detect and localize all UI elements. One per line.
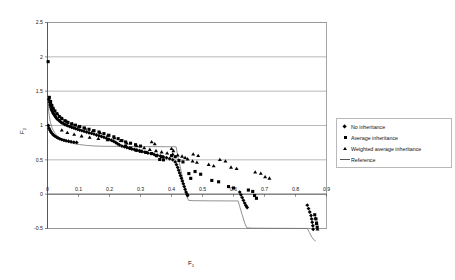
legend-item-label: Weighted average inheritance (351, 146, 421, 152)
legend-item-square[interactable]: Average inheritance (339, 132, 448, 143)
square-marker-icon (339, 133, 351, 142)
data-point-square (135, 149, 138, 152)
data-point-square (255, 197, 258, 200)
data-point-square (181, 160, 184, 163)
x-tick-label: 0.8 (292, 186, 299, 192)
line-glyph (340, 159, 350, 160)
diamond-glyph (343, 124, 348, 129)
y-tick-label: 2 (40, 54, 43, 60)
y-tick-label: 0 (40, 191, 43, 197)
data-point-square (217, 180, 220, 183)
data-point-square (117, 137, 120, 140)
x-tick-label: 0.7 (261, 186, 268, 192)
x-tick-label: 0.5 (199, 186, 206, 192)
data-point-square (251, 190, 254, 193)
data-point-square (155, 154, 158, 157)
legend-item-label: No inheritance (351, 124, 385, 130)
data-point-square (210, 179, 213, 182)
legend-item-triangle[interactable]: Weighted average inheritance (339, 143, 448, 154)
data-point-square (102, 132, 105, 135)
y-tick-label: 2.5 (36, 19, 43, 25)
line-marker-icon (339, 155, 351, 164)
legend-item-diamond[interactable]: No inheritance (339, 121, 448, 132)
data-point-square (87, 128, 90, 131)
data-point-square (150, 152, 153, 155)
x-tick-label: 0 (46, 186, 49, 192)
x-tick-label: 0.9 (323, 186, 330, 192)
triangle-glyph (343, 147, 347, 150)
data-point-square (74, 124, 77, 127)
data-point-square (50, 104, 53, 107)
data-point-square (253, 194, 256, 197)
square-glyph (344, 136, 347, 139)
data-point-square (189, 177, 192, 180)
y-tick-label: 0.5 (36, 157, 43, 163)
legend-item-line[interactable]: Reference (339, 154, 448, 165)
data-point-square (199, 173, 202, 176)
x-tick-label: 0.2 (106, 186, 113, 192)
data-point-square (194, 170, 197, 173)
chart-legend: No inheritanceAverage inheritanceWeighte… (336, 118, 452, 168)
data-point-square (187, 172, 190, 175)
data-point-square (139, 150, 142, 153)
data-point-square (247, 189, 250, 192)
legend-item-label: Average inheritance (351, 135, 398, 141)
data-point-square (124, 145, 127, 148)
data-point-square (162, 158, 165, 161)
data-point-square (48, 96, 51, 99)
y-tick-label: -0.5 (34, 225, 43, 231)
data-point-square (158, 158, 161, 161)
data-point-square (129, 147, 132, 150)
y-tick-label: 1 (40, 122, 43, 128)
data-point-square (47, 60, 50, 63)
data-point-square (160, 155, 163, 158)
x-tick-label: 0.4 (168, 186, 175, 192)
data-point-square (313, 213, 316, 216)
triangle-marker-icon (339, 144, 351, 153)
data-point-square (177, 159, 180, 162)
data-point-square (232, 186, 235, 189)
chart-root: -0.500.511.522.5 00.10.20.30.40.50.60.70… (0, 0, 455, 280)
x-tick-label: 0.1 (75, 186, 82, 192)
data-point-square (145, 151, 148, 154)
x-tick-label: 0.3 (137, 186, 144, 192)
data-point-square (129, 142, 132, 145)
diamond-marker-icon (339, 122, 351, 131)
data-point-square (139, 145, 142, 148)
legend-item-label: Reference (351, 157, 375, 163)
data-point-square (227, 185, 230, 188)
y-tick-label: 1.5 (36, 88, 43, 94)
